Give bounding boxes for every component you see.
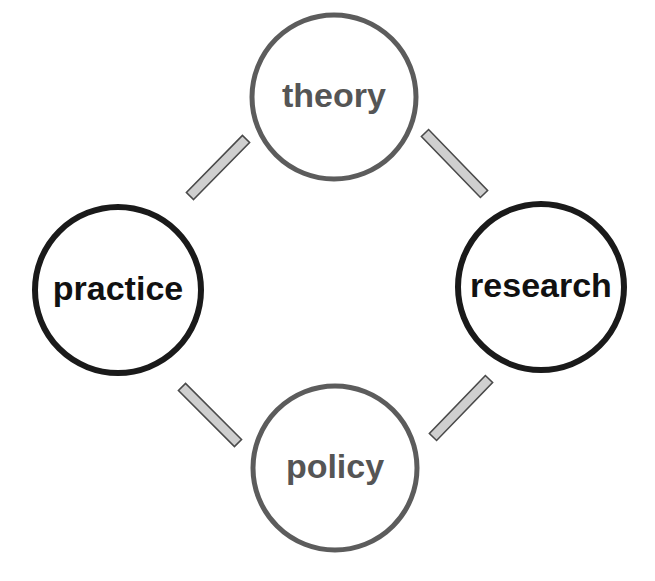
cycle-diagram: theory practice research policy [0,0,655,581]
node-practice[interactable]: practice [35,207,201,373]
theory-label: theory [282,76,386,114]
connector-outline-practice-theory [186,136,249,200]
node-theory[interactable]: theory [252,15,416,179]
practice-label: practice [53,269,183,307]
research-label: research [470,266,612,304]
policy-label: policy [286,447,384,485]
connector-outline-theory-research [421,130,487,198]
connector-outline-policy-practice [178,383,241,446]
node-policy[interactable]: policy [253,386,417,550]
node-research[interactable]: research [458,204,624,370]
connector-outline-research-policy [429,376,492,441]
diagram-canvas: theory practice research policy [0,0,655,581]
